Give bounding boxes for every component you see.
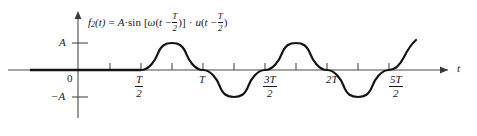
formula-equals: = bbox=[108, 17, 114, 28]
formula-omega: ω bbox=[148, 17, 156, 28]
formula-minus-2: − bbox=[211, 17, 217, 28]
signal-sine-curve bbox=[141, 40, 416, 97]
formula-fraction-2: T2 bbox=[218, 12, 223, 33]
x-tick-label-5T-over-2-denominator: 2 bbox=[389, 88, 403, 99]
waveform-figure: f2(t)=A·sin[ω(t−T2)]·u(t−T2) A 0 −A t T … bbox=[0, 0, 477, 136]
x-tick-label-3T-over-2: 3T 2 bbox=[263, 74, 277, 99]
formula-inner-t-1: t bbox=[159, 17, 162, 28]
x-tick-label-T-over-2-numerator: T bbox=[135, 74, 143, 85]
x-axis-arrowhead bbox=[440, 67, 448, 74]
x-tick-label-3T-over-2-denominator: 2 bbox=[263, 88, 277, 99]
x-tick-label-5T-over-2: 5T 2 bbox=[389, 74, 403, 99]
x-axis-label-t: t bbox=[457, 63, 460, 74]
formula-amplitude: A bbox=[118, 17, 125, 28]
formula-sin: sin bbox=[128, 17, 141, 28]
formula-fraction-1: T2 bbox=[172, 12, 177, 33]
formula-fraction-2-denominator: 2 bbox=[218, 24, 223, 33]
x-tick-label-3T-over-2-numerator: 3T bbox=[263, 74, 277, 85]
formula-paren-close: ) bbox=[102, 17, 106, 28]
y-axis-arrowhead bbox=[75, 11, 82, 19]
formula-minus-1: − bbox=[165, 17, 171, 28]
x-tick-label-T: T bbox=[199, 74, 205, 85]
formula-u-paren-close: ) bbox=[224, 17, 228, 28]
formula-inner-t-2: t bbox=[205, 17, 208, 28]
x-tick-label-2T: 2T bbox=[326, 74, 338, 85]
formula-dot-2: · bbox=[189, 17, 193, 28]
formula-fraction-1-numerator: T bbox=[172, 12, 177, 21]
y-axis-label-A: A bbox=[59, 37, 66, 48]
formula-fraction-2-numerator: T bbox=[218, 12, 223, 21]
y-axis-label-negative-A: −A bbox=[51, 91, 65, 102]
x-tick-label-T-over-2-denominator: 2 bbox=[135, 88, 143, 99]
x-tick-label-T-over-2: T 2 bbox=[135, 74, 143, 99]
formula-label: f2(t)=A·sin[ω(t−T2)]·u(t−T2) bbox=[88, 12, 228, 33]
plot-canvas bbox=[0, 0, 477, 136]
x-tick-label-5T-over-2-numerator: 5T bbox=[389, 74, 403, 85]
y-axis-label-origin: 0 bbox=[67, 73, 73, 84]
formula-fraction-1-denominator: 2 bbox=[172, 24, 177, 33]
formula-bracket-close: ] bbox=[182, 17, 186, 28]
formula-f-subscript: 2 bbox=[91, 21, 95, 29]
